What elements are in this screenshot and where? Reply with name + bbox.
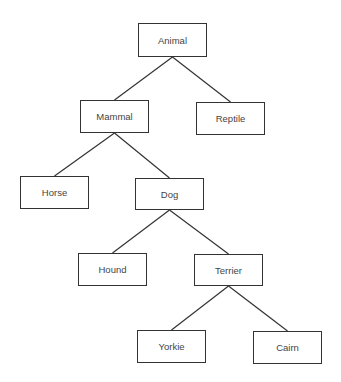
edge-dog-hound	[113, 210, 170, 253]
node-label: Reptile	[216, 113, 246, 124]
edge-dog-terrier	[170, 210, 229, 254]
node-hound: Hound	[78, 253, 147, 286]
node-label: Animal	[158, 35, 187, 46]
edge-terrier-cairn	[229, 286, 288, 331]
node-yorkie: Yorkie	[137, 330, 206, 363]
node-animal: Animal	[138, 23, 207, 57]
edge-animal-reptile	[173, 57, 231, 102]
node-dog: Dog	[135, 178, 204, 210]
node-horse: Horse	[20, 176, 89, 209]
node-reptile: Reptile	[196, 102, 265, 135]
node-label: Mammal	[96, 111, 132, 122]
node-label: Cairn	[276, 342, 299, 353]
node-label: Horse	[42, 187, 67, 198]
node-cairn: Cairn	[253, 331, 322, 364]
node-terrier: Terrier	[194, 254, 263, 286]
node-mammal: Mammal	[80, 100, 149, 133]
node-label: Yorkie	[158, 341, 184, 352]
edge-mammal-dog	[115, 133, 170, 178]
edge-mammal-horse	[55, 133, 115, 176]
node-label: Terrier	[215, 265, 242, 276]
tree-diagram: Animal Mammal Reptile Horse Dog Hound Te…	[0, 0, 341, 382]
edge-animal-mammal	[115, 57, 173, 100]
node-label: Dog	[161, 189, 178, 200]
node-label: Hound	[99, 264, 127, 275]
edge-terrier-yorkie	[172, 286, 229, 330]
